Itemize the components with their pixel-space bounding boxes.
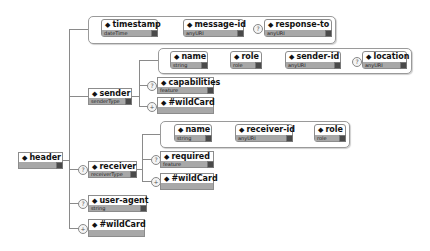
optional-icon: ?	[352, 57, 362, 67]
element-header[interactable]: ◆header	[18, 152, 63, 169]
receiver-attr-receiver-id[interactable]: ◆receiver-id anyURI	[235, 124, 293, 142]
node-label: role	[325, 125, 343, 134]
element-user-agent[interactable]: ◆user-agent string	[88, 195, 147, 212]
expand-icon[interactable]	[400, 62, 407, 69]
node-type	[89, 230, 144, 236]
bullet-icon: ◆	[161, 79, 166, 87]
optional-icon: ?	[78, 165, 88, 175]
bullet-icon: ◆	[161, 99, 166, 107]
expand-icon[interactable]	[56, 162, 63, 169]
connector-sender-attrs	[139, 60, 158, 61]
bullet-icon: ◆	[239, 126, 244, 134]
node-label: #wildCard	[171, 174, 217, 183]
bullet-icon: ◆	[178, 126, 183, 134]
node-type	[158, 107, 213, 113]
node-label: response-to	[275, 20, 329, 29]
element-receiver[interactable]: ◆receiver receiverType	[88, 161, 137, 178]
node-type: anyURI	[184, 30, 243, 36]
connector-sender-trunk	[132, 96, 139, 97]
element-sender[interactable]: ◆sender senderType	[88, 88, 132, 105]
element-receiver-wildcard[interactable]: ◆#wildCard	[160, 173, 214, 190]
attr-response-to[interactable]: ◆response-to anyURI	[264, 19, 332, 37]
receiver-attr-name[interactable]: ◆name string	[174, 124, 212, 142]
node-type: feature	[158, 87, 213, 93]
node-label: #wildCard	[99, 220, 145, 229]
expand-icon[interactable]	[205, 135, 212, 142]
bullet-icon: ◆	[92, 197, 97, 205]
bullet-icon: ◆	[164, 153, 169, 161]
node-type	[161, 183, 213, 189]
bullet-icon: ◆	[268, 21, 273, 29]
sender-attr-sender-id[interactable]: ◆sender-id anyURI	[285, 51, 341, 69]
node-label: user-agent	[99, 196, 148, 205]
optional-icon: ?	[253, 24, 263, 34]
node-label: receiver	[99, 162, 136, 171]
node-type: dateTime	[102, 30, 157, 36]
zero-or-more-icon: +	[147, 102, 157, 112]
node-label: sender-id	[296, 52, 339, 61]
bullet-icon: ◆	[92, 163, 97, 171]
bullet-icon: ◆	[289, 53, 294, 61]
optional-icon: ?	[147, 81, 157, 91]
node-label: timestamp	[112, 20, 160, 29]
bullet-icon: ◆	[234, 53, 239, 61]
node-type: anyURI	[286, 62, 340, 68]
node-type: anyURI	[236, 135, 292, 141]
expand-icon[interactable]	[325, 30, 332, 37]
node-label: role	[241, 52, 259, 61]
optional-icon: ?	[78, 199, 88, 209]
node-type: feature	[161, 161, 213, 167]
element-header-wildcard[interactable]: ◆#wildCard	[88, 219, 145, 237]
connector-receiver-vertical	[142, 134, 143, 181]
connector-to-sender	[69, 96, 88, 97]
connector-main-vertical	[69, 29, 70, 228]
expand-icon[interactable]	[255, 62, 262, 69]
connector-to-attrs	[69, 29, 88, 30]
sender-attr-role[interactable]: ◆role role	[230, 51, 262, 69]
expand-icon[interactable]	[140, 205, 147, 212]
attr-timestamp[interactable]: ◆timestamp dateTime	[101, 19, 158, 37]
connector-receiver-attrs	[142, 134, 160, 135]
sender-attr-location[interactable]: ◆location anyURI	[362, 51, 407, 69]
node-label: location	[373, 52, 409, 61]
node-label: sender	[99, 89, 130, 98]
node-type: anyURI	[265, 30, 331, 36]
bullet-icon: ◆	[174, 53, 179, 61]
element-capabilities[interactable]: ◆capabilities feature	[157, 77, 214, 94]
element-required[interactable]: ◆required feature	[160, 151, 214, 168]
sender-attr-name[interactable]: ◆name string	[170, 51, 208, 69]
node-type: string	[89, 205, 146, 211]
bullet-icon: ◆	[164, 175, 169, 183]
bullet-icon: ◆	[187, 21, 192, 29]
expand-icon[interactable]	[237, 30, 244, 37]
bullet-icon: ◆	[105, 21, 110, 29]
attr-message-id[interactable]: ◆message-id anyURI	[183, 19, 244, 37]
expand-icon[interactable]	[207, 161, 214, 168]
node-label: required	[171, 152, 210, 161]
node-label: #wildCard	[168, 98, 214, 107]
bullet-icon: ◆	[92, 90, 97, 98]
expand-icon[interactable]	[339, 135, 346, 142]
expand-icon[interactable]	[130, 171, 137, 178]
node-label: message-id	[194, 20, 246, 29]
node-label: header	[29, 153, 61, 162]
bullet-icon: ◆	[366, 53, 371, 61]
zero-or-more-icon: +	[78, 224, 88, 234]
expand-icon[interactable]	[151, 30, 158, 37]
node-label: capabilities	[168, 78, 220, 87]
expand-icon[interactable]	[201, 62, 208, 69]
bullet-icon: ◆	[318, 126, 323, 134]
expand-icon[interactable]	[334, 62, 341, 69]
connector-sender-vertical	[139, 60, 140, 106]
expand-icon[interactable]	[207, 87, 214, 94]
expand-icon[interactable]	[125, 98, 132, 105]
node-label: name	[185, 125, 210, 134]
node-label: name	[181, 52, 206, 61]
node-label: receiver-id	[246, 125, 295, 134]
node-type: receiverType	[89, 171, 136, 177]
bullet-icon: ◆	[92, 221, 97, 229]
receiver-attr-role[interactable]: ◆role role	[314, 124, 346, 142]
expand-icon[interactable]	[286, 135, 293, 142]
element-sender-wildcard[interactable]: ◆#wildCard	[157, 97, 214, 114]
bullet-icon: ◆	[22, 154, 27, 162]
